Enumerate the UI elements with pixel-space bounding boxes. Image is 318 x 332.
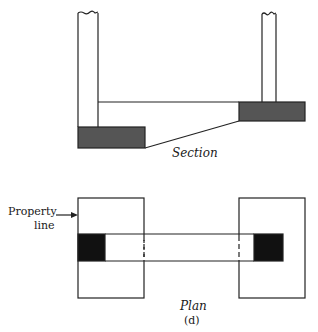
section-view <box>78 11 305 148</box>
break-line-icon <box>78 11 98 14</box>
right-column <box>254 234 283 261</box>
left-footing <box>78 127 145 148</box>
section-label: Section <box>172 147 218 159</box>
plan-label: Plan <box>180 300 207 312</box>
property-line-label-line1: Property <box>8 206 57 218</box>
right-footing <box>239 102 305 121</box>
left-column <box>78 234 105 261</box>
left-wall <box>78 11 98 127</box>
arrow-right-icon <box>56 212 78 218</box>
plan-view <box>56 198 305 298</box>
strap-footing-diagram <box>0 0 318 332</box>
grade-beam-plan <box>105 234 254 261</box>
property-line-label-line2: line <box>34 220 55 232</box>
break-line-icon <box>262 12 276 15</box>
figure-tag: (d) <box>184 315 200 327</box>
right-wall <box>262 12 276 102</box>
